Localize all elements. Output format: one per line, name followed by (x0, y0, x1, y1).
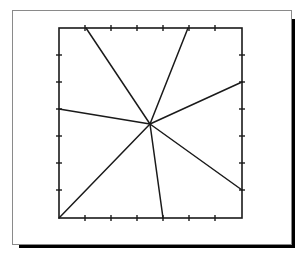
panel (13, 11, 296, 249)
diagram-canvas (0, 0, 306, 259)
panel-border (13, 11, 292, 245)
